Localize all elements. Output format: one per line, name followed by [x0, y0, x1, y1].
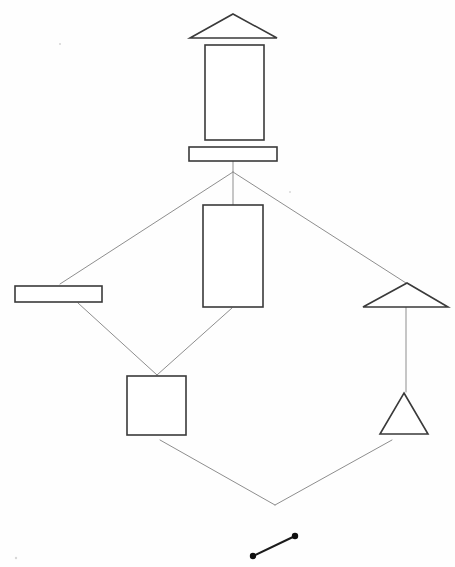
detached-segment-group: [250, 533, 298, 559]
shape-hierarchy-diagram: [0, 0, 455, 567]
node-top-triangle[interactable]: [190, 14, 277, 38]
node-right-flat-triangle[interactable]: [363, 283, 448, 307]
node-bottom-square[interactable]: [127, 376, 186, 435]
node-middle-rectangle[interactable]: [203, 205, 263, 307]
segment-start-dot[interactable]: [250, 553, 256, 559]
edge-square-to-v: [160, 440, 275, 505]
edge-left-bar-to-square: [78, 303, 157, 375]
noise-speck-2: [289, 191, 291, 193]
shape-node-group: [15, 14, 448, 435]
edge-middle-rect-to-square: [157, 308, 232, 375]
edge-bottom-triangle-to-v: [275, 440, 392, 505]
segment-end-dot[interactable]: [292, 533, 298, 539]
node-top-rectangle[interactable]: [205, 45, 264, 140]
bottom-line-segment[interactable]: [253, 536, 295, 556]
node-left-bar[interactable]: [15, 286, 102, 302]
node-bottom-triangle[interactable]: [380, 393, 428, 434]
diagram-canvas: [0, 0, 455, 567]
noise-speck-1: [59, 43, 61, 45]
node-top-bar[interactable]: [189, 147, 277, 161]
noise-speck-3: [15, 557, 17, 559]
